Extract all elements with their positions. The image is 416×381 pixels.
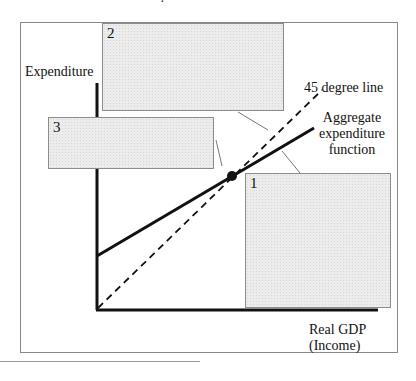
equilibrium-point <box>227 171 237 181</box>
blank-box-3[interactable]: 3 <box>48 117 214 169</box>
box-number: 1 <box>250 175 258 191</box>
x-axis-label: Real GDP (Income) <box>309 322 366 354</box>
blank-box-1[interactable]: 1 <box>245 173 391 308</box>
leader-line-1 <box>282 151 300 173</box>
leader-line-3 <box>216 140 222 166</box>
y-axis-label: Expenditure <box>25 64 93 80</box>
box-number: 2 <box>107 25 115 41</box>
box-number: 3 <box>53 119 61 135</box>
blank-box-2[interactable]: 2 <box>102 23 284 111</box>
ae-function-label: Aggregate expenditure function <box>312 110 392 158</box>
45-degree-line-label: 45 degree line <box>304 80 383 96</box>
x-axis-label-line2: (Income) <box>309 338 366 354</box>
ae-label-line2: expenditure <box>312 126 392 142</box>
ae-label-line3: function <box>312 142 392 158</box>
x-axis-label-line1: Real GDP <box>309 322 366 338</box>
leader-line-2 <box>238 112 268 130</box>
ae-label-line1: Aggregate <box>312 110 392 126</box>
